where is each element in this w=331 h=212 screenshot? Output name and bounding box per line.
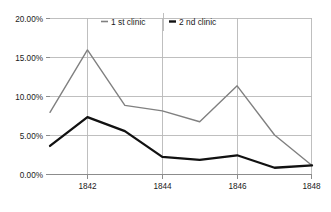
series-line-2nd-clinic: [50, 117, 312, 168]
y-tick-marks: [46, 19, 50, 136]
x-axis-labels: 1842 1844 1846 1848: [78, 182, 321, 191]
ytick-label-0: 0.00%: [20, 171, 43, 180]
vertical-gridlines: [88, 18, 312, 174]
chart-canvas: 20.00% 15.00% 10.00% 5.00% 0.00% 1842 18…: [0, 0, 331, 212]
xtick-label-1842: 1842: [78, 182, 97, 191]
y-axis-labels: 20.00% 15.00% 10.00% 5.00% 0.00%: [15, 15, 43, 180]
ytick-label-15: 15.00%: [15, 54, 43, 63]
ytick-label-20: 20.00%: [15, 15, 43, 24]
ytick-label-10: 10.00%: [15, 93, 43, 102]
ytick-label-5: 5.00%: [20, 132, 43, 141]
xtick-label-1846: 1846: [228, 182, 247, 191]
xtick-label-1848: 1848: [302, 182, 321, 191]
xtick-label-1844: 1844: [153, 182, 172, 191]
legend-label-2nd-clinic: 2 nd clinic: [179, 17, 216, 27]
chart-legend: 1 st clinic 2 nd clinic: [101, 13, 216, 31]
line-chart: 20.00% 15.00% 10.00% 5.00% 0.00% 1842 18…: [0, 0, 331, 212]
series-line-1st-clinic: [50, 50, 312, 165]
legend-label-1st-clinic: 1 st clinic: [111, 17, 145, 27]
data-series: [50, 50, 312, 168]
